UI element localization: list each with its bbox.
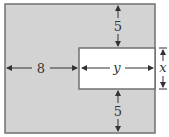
left-width-label: 8 (37, 61, 45, 76)
inner-height-dimension: x (159, 48, 167, 89)
diagram: 5 8 y x 5 (0, 0, 169, 137)
inner-width-label: y (112, 60, 121, 75)
bottom-gap-label: 5 (114, 104, 122, 119)
inner-height-label: x (159, 60, 167, 75)
top-gap-label: 5 (114, 19, 122, 34)
